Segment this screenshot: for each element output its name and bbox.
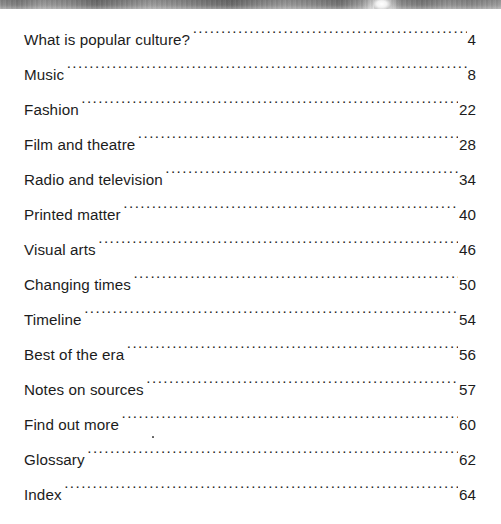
table-of-contents-list: What is popular culture?4Music8Fashion22… bbox=[0, 22, 501, 512]
toc-entry-title: Music bbox=[24, 57, 64, 92]
toc-dot-leader bbox=[87, 450, 458, 465]
toc-entry-title: Fashion bbox=[24, 92, 79, 127]
toc-entry[interactable]: Changing times50 bbox=[0, 267, 501, 302]
toc-entry[interactable]: Radio and television34 bbox=[0, 162, 501, 197]
toc-entry-title: Changing times bbox=[24, 267, 131, 302]
toc-entry[interactable]: Timeline54 bbox=[0, 302, 501, 337]
toc-dot-leader bbox=[122, 415, 459, 430]
photo-strip-shading bbox=[0, 0, 501, 9]
toc-entry-page-number: 34 bbox=[459, 162, 476, 197]
toc-entry[interactable]: What is popular culture?4 bbox=[0, 22, 501, 57]
toc-entry-title: Find out more bbox=[24, 407, 119, 442]
toc-entry-page-number: 4 bbox=[467, 22, 476, 57]
toc-dot-leader bbox=[64, 485, 458, 500]
toc-entry-title: What is popular culture? bbox=[24, 22, 190, 57]
toc-entry[interactable]: Visual arts46 bbox=[0, 232, 501, 267]
toc-dot-leader bbox=[123, 205, 458, 220]
toc-entry-page-number: 46 bbox=[459, 232, 476, 267]
toc-entry-page-number: 56 bbox=[459, 337, 476, 372]
toc-entry[interactable]: Printed matter40 bbox=[0, 197, 501, 232]
toc-entry[interactable]: Find out more60 bbox=[0, 407, 501, 442]
toc-entry-title: Notes on sources bbox=[24, 372, 144, 407]
toc-dot-leader bbox=[193, 30, 467, 45]
toc-dot-leader bbox=[138, 135, 459, 150]
toc-entry-title: Printed matter bbox=[24, 197, 121, 232]
toc-entry-title: Glossary bbox=[24, 442, 85, 477]
toc-entry-page-number: 60 bbox=[459, 407, 476, 442]
toc-dot-leader bbox=[98, 240, 458, 255]
toc-entry-page-number: 22 bbox=[459, 92, 476, 127]
toc-entry[interactable]: Best of the era56 bbox=[0, 337, 501, 372]
toc-entry-page-number: 64 bbox=[459, 477, 476, 512]
toc-entry-title: Visual arts bbox=[24, 232, 96, 267]
toc-page: What is popular culture?4Music8Fashion22… bbox=[0, 0, 501, 524]
toc-dot-leader bbox=[67, 65, 467, 80]
photo-strip-highlight bbox=[374, 0, 391, 9]
toc-dot-leader bbox=[84, 310, 458, 325]
toc-entry[interactable]: Fashion22 bbox=[0, 92, 501, 127]
toc-dot-leader bbox=[133, 275, 458, 290]
toc-entry-page-number: 50 bbox=[459, 267, 476, 302]
toc-entry[interactable]: Notes on sources57 bbox=[0, 372, 501, 407]
toc-entry-page-number: 28 bbox=[459, 127, 476, 162]
toc-entry-page-number: 8 bbox=[467, 57, 476, 92]
toc-entry-title: Index bbox=[24, 477, 62, 512]
toc-entry-page-number: 54 bbox=[459, 302, 476, 337]
toc-entry-page-number: 57 bbox=[459, 372, 476, 407]
toc-entry[interactable]: Film and theatre28 bbox=[0, 127, 501, 162]
toc-dot-leader bbox=[146, 380, 458, 395]
toc-entry[interactable]: Glossary62 bbox=[0, 442, 501, 477]
toc-dot-leader bbox=[127, 345, 459, 360]
toc-entry-page-number: 40 bbox=[459, 197, 476, 232]
toc-dot-leader bbox=[81, 100, 458, 115]
toc-entry-title: Radio and television bbox=[24, 162, 163, 197]
toc-entry-title: Best of the era bbox=[24, 337, 124, 372]
toc-entry-title: Timeline bbox=[24, 302, 82, 337]
toc-entry[interactable]: Music8 bbox=[0, 57, 501, 92]
toc-entry-page-number: 62 bbox=[459, 442, 476, 477]
toc-entry[interactable]: Index64 bbox=[0, 477, 501, 512]
grayscale-photo-strip bbox=[0, 0, 501, 9]
toc-entry-title: Film and theatre bbox=[24, 127, 135, 162]
scan-speck-artifact bbox=[152, 436, 154, 438]
toc-dot-leader bbox=[165, 170, 458, 185]
